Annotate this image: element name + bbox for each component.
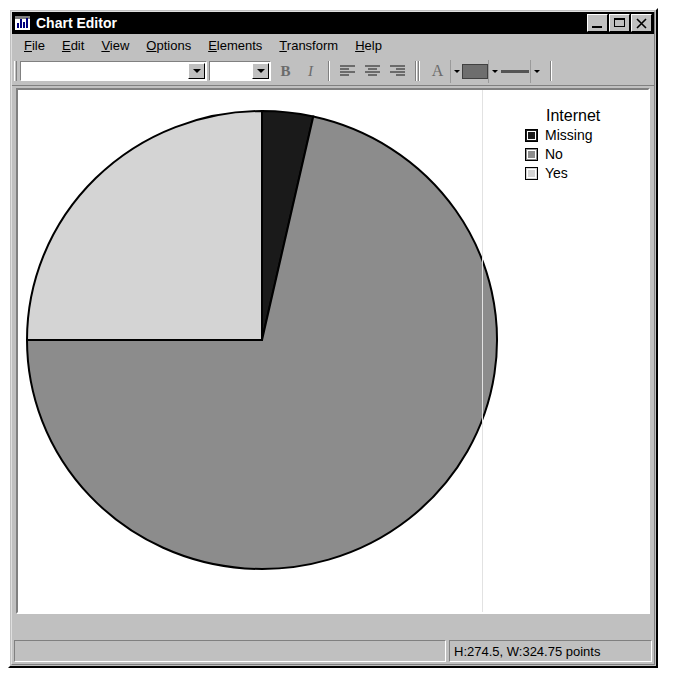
legend-item-missing[interactable]: Missing <box>525 126 600 145</box>
align-right-icon <box>390 65 405 77</box>
status-bar: H:274.5, W:324.75 points <box>14 640 652 662</box>
close-button[interactable] <box>631 14 652 32</box>
maximize-button[interactable] <box>609 14 630 32</box>
title-bar[interactable]: Chart Editor <box>12 12 654 34</box>
italic-button[interactable]: I <box>298 60 323 83</box>
status-dimensions: H:274.5, W:324.75 points <box>449 640 652 662</box>
chart-canvas[interactable]: Internet Missing No Yes <box>16 88 650 614</box>
align-right-button[interactable] <box>385 60 410 83</box>
menu-item-view[interactable]: View <box>93 36 138 55</box>
font-family-combo[interactable] <box>20 61 207 81</box>
legend-label-yes: Yes <box>545 166 568 181</box>
legend-swatch-yes <box>525 167 538 180</box>
toolbar-separator <box>328 61 330 81</box>
maximize-icon <box>614 18 625 27</box>
align-center-icon <box>365 65 380 77</box>
legend-item-no[interactable]: No <box>525 145 600 164</box>
chevron-down-icon[interactable] <box>488 60 500 83</box>
text-properties-button[interactable]: A <box>425 60 450 83</box>
legend-label-missing: Missing <box>545 128 592 143</box>
toolbar-grip[interactable] <box>14 61 17 81</box>
legend-title: Internet <box>546 107 600 125</box>
menu-bar: File Edit View Options Elements Transfor… <box>12 35 654 56</box>
minimize-icon <box>592 26 602 28</box>
line-weight-icon[interactable] <box>500 64 530 78</box>
window-title: Chart Editor <box>36 16 117 30</box>
menu-item-file[interactable]: File <box>16 36 54 55</box>
align-center-button[interactable] <box>360 60 385 83</box>
formatting-toolbar: B I A <box>12 57 654 86</box>
align-left-button[interactable] <box>335 60 360 83</box>
canvas-divider-line <box>482 90 483 612</box>
chevron-down-icon[interactable] <box>530 60 542 83</box>
font-family-value[interactable] <box>21 62 187 80</box>
toolbar-separator <box>418 61 420 81</box>
menu-item-transform[interactable]: Transform <box>271 36 347 55</box>
bold-button[interactable]: B <box>273 60 298 83</box>
close-icon <box>636 18 647 29</box>
minimize-button[interactable] <box>587 14 608 32</box>
legend-swatch-no <box>525 148 538 161</box>
window-controls <box>586 14 654 32</box>
legend-item-yes[interactable]: Yes <box>525 164 600 183</box>
pie-slice-yes[interactable] <box>27 111 262 340</box>
menu-item-help[interactable]: Help <box>347 36 391 55</box>
align-left-icon <box>340 65 355 77</box>
chevron-down-icon[interactable] <box>450 60 462 83</box>
menu-item-elements[interactable]: Elements <box>200 36 271 55</box>
font-size-combo[interactable] <box>209 61 271 81</box>
toolbar-separator <box>550 61 552 81</box>
status-message <box>14 640 446 662</box>
font-size-value[interactable] <box>210 62 251 80</box>
fill-color-swatch[interactable] <box>462 64 488 79</box>
chevron-down-icon[interactable] <box>188 63 205 79</box>
menu-item-edit[interactable]: Edit <box>54 36 93 55</box>
legend-label-no: No <box>545 147 563 162</box>
pie-slices[interactable] <box>27 111 497 569</box>
toolbar-separator <box>415 61 417 81</box>
menu-item-options[interactable]: Options <box>138 36 200 55</box>
chart-editor-window: Chart Editor File Edit View Options Elem… <box>8 8 658 668</box>
legend-swatch-missing <box>525 129 538 142</box>
chart-legend: Internet Missing No Yes <box>525 107 600 183</box>
chevron-down-icon[interactable] <box>252 63 269 79</box>
chart-app-icon <box>14 15 31 31</box>
